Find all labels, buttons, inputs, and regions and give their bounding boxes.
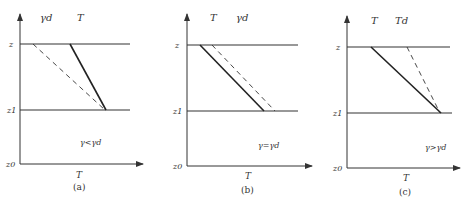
dry-adiabatic-dashed-line (33, 44, 105, 110)
top-label-2: Td (395, 15, 408, 26)
y-label-z1: z1 (172, 107, 182, 116)
y-label-z1: z1 (332, 109, 342, 118)
dry-adiabatic-dashed-line (407, 47, 440, 113)
lapse-rate-diagram: γd T z z1 z0 γ<γd T (a) T γd z z1 z0 γ=γ… (0, 0, 462, 204)
y-label-z0: z0 (172, 162, 182, 171)
top-label-1: γd (40, 12, 52, 23)
panel-b: T γd z z1 z0 γ=γd T (b) (172, 12, 312, 195)
temperature-solid-line (371, 47, 441, 113)
temperature-solid-line (200, 45, 264, 111)
top-label-2: γd (236, 12, 248, 23)
x-axis-label: T (403, 173, 410, 183)
condition-label: γ>γd (425, 143, 446, 152)
top-label-1: T (371, 15, 379, 26)
y-label-z0: z0 (5, 160, 15, 169)
x-axis-label: T (245, 171, 252, 181)
panel-c: T Td z z1 z0 γ>γd T (c) (332, 15, 460, 197)
y-label-z: z (174, 41, 180, 50)
temperature-solid-line (70, 44, 106, 110)
top-label-1: T (210, 12, 218, 23)
panel-caption: (a) (73, 182, 85, 192)
condition-label: γ=γd (258, 141, 279, 150)
y-label-z1: z1 (6, 106, 16, 115)
x-axis-label: T (76, 170, 83, 180)
dry-adiabatic-dashed-line (212, 45, 275, 111)
y-label-z: z (8, 40, 14, 49)
condition-label: γ<γd (80, 138, 101, 147)
y-label-z: z (335, 43, 341, 52)
top-label-2: T (77, 12, 85, 23)
panel-caption: (c) (399, 187, 411, 197)
panel-caption: (b) (241, 185, 254, 195)
panel-a: γd T z z1 z0 γ<γd T (a) (5, 12, 143, 192)
y-label-z0: z0 (332, 164, 342, 173)
